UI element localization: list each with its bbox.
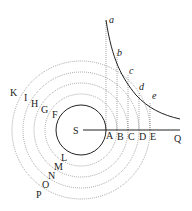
- label-F: F: [52, 109, 58, 120]
- label-A: A: [106, 130, 114, 141]
- label-B: B: [117, 131, 124, 142]
- label-E: E: [150, 131, 156, 142]
- label-S: S: [73, 125, 79, 136]
- label-c: c: [129, 65, 134, 76]
- label-e: e: [152, 90, 157, 101]
- label-O: O: [42, 179, 49, 190]
- label-Q: Q: [174, 133, 182, 144]
- label-P: P: [36, 189, 42, 200]
- label-d: d: [139, 81, 145, 92]
- label-I: I: [24, 92, 27, 103]
- label-K: K: [10, 87, 18, 98]
- label-a: a: [109, 14, 114, 25]
- label-M: M: [54, 161, 63, 172]
- label-G: G: [41, 104, 48, 115]
- label-D: D: [139, 131, 146, 142]
- label-C: C: [128, 131, 135, 142]
- label-b: b: [117, 47, 122, 58]
- label-H: H: [31, 98, 38, 109]
- geometric-figure: S Q A B C D E a b c d e F G H I K L M N …: [0, 0, 192, 211]
